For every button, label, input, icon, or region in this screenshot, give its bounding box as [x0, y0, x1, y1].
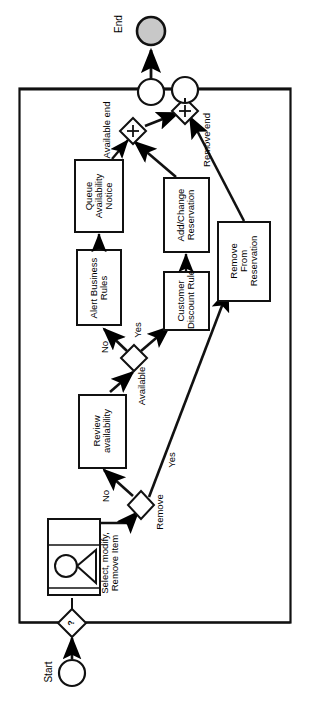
task-queue-availability-notice-shape — [75, 160, 123, 232]
flow-review-to-available-gateway — [110, 372, 133, 392]
diagram-svg — [0, 0, 310, 704]
task-alert-business-rules-shape — [77, 250, 121, 325]
flow-select-to-remove-gateway — [100, 512, 138, 523]
task-review-availability-shape — [79, 395, 126, 468]
flow-available-no-to-alert — [104, 329, 127, 351]
task-add-change-reservation-shape — [164, 178, 209, 252]
flow-available-join-to-remove-join — [145, 113, 178, 126]
task-customer-discount-rule-shape — [164, 272, 209, 330]
merge-node-left-circle — [138, 79, 164, 105]
end-event-circle — [137, 17, 165, 45]
task-remove-from-reservation-shape — [218, 222, 270, 301]
gateway-join-available-end — [120, 118, 146, 144]
flow-remove-no-to-review — [104, 470, 133, 496]
task-select-modify-shape — [48, 519, 100, 595]
diagram-canvas: End Start Available end Remove end Queue… — [0, 0, 310, 704]
flow-addchange-to-available-join — [135, 142, 176, 177]
start-event-circle — [59, 660, 85, 686]
flow-queue-to-available-join — [112, 140, 128, 159]
gateway-start-question — [58, 609, 86, 637]
